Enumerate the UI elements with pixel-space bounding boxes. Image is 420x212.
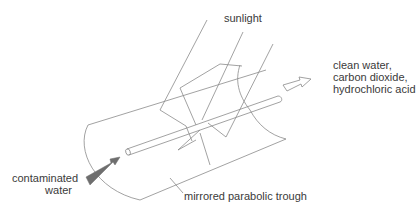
receiver-tube-cap xyxy=(278,96,282,102)
output-arrow xyxy=(283,77,311,91)
sun-ray-3 xyxy=(208,44,273,137)
trough-mid-curve xyxy=(238,65,250,110)
trough-leader-line xyxy=(170,178,183,193)
output-label-line1: clean water, xyxy=(333,59,392,71)
sunlight-label: sunlight xyxy=(224,12,262,24)
diagram-canvas: sunlight clean water, carbon dioxide, hy… xyxy=(0,0,420,212)
reflected-ray-5 xyxy=(200,133,210,165)
trough-right-curve xyxy=(250,110,286,139)
reflected-ray-1 xyxy=(160,110,192,141)
output-label-line3: hydrochloric acid xyxy=(333,83,416,95)
trough-label: mirrored parabolic trough xyxy=(184,190,307,202)
reflected-ray-3 xyxy=(180,88,196,125)
output-label-line2: carbon dioxide, xyxy=(333,71,408,83)
receiver-tube-end xyxy=(125,148,131,156)
sun-ray-2 xyxy=(202,32,243,120)
reflected-ray-2 xyxy=(180,64,242,88)
input-label-line1: contaminated xyxy=(12,172,72,184)
input-label-line2: water xyxy=(12,184,72,196)
